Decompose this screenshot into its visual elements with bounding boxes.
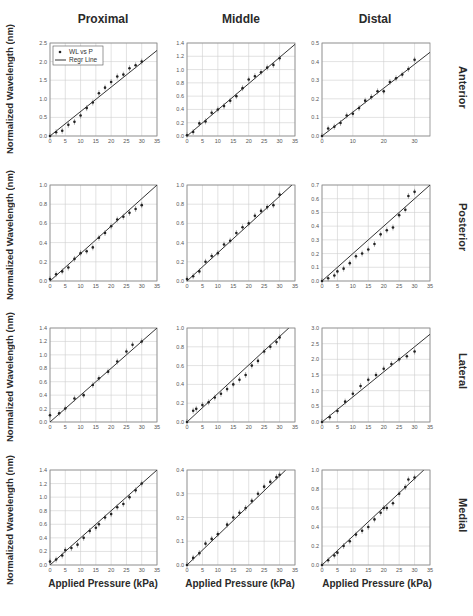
plot-medial-distal: 051015202530350.00.20.40.60.81.0 [322, 470, 430, 565]
column-title-distal: Distal [320, 12, 430, 26]
svg-text:30: 30 [277, 283, 283, 289]
svg-text:0.5: 0.5 [311, 403, 319, 409]
svg-text:0.4: 0.4 [311, 223, 319, 229]
svg-text:30: 30 [412, 138, 418, 144]
svg-text:35: 35 [154, 424, 160, 430]
svg-text:35: 35 [427, 424, 433, 430]
svg-text:25: 25 [123, 567, 129, 573]
svg-text:25: 25 [261, 138, 267, 144]
x-axis-label-middle: Applied Pressure (kPa) [175, 578, 305, 589]
svg-text:35: 35 [292, 138, 298, 144]
svg-text:0.0: 0.0 [39, 133, 47, 139]
svg-text:0.4: 0.4 [176, 381, 184, 387]
svg-text:35: 35 [292, 424, 298, 430]
svg-text:0.0: 0.0 [311, 419, 319, 425]
svg-text:15: 15 [365, 283, 371, 289]
svg-text:0.0: 0.0 [39, 562, 47, 568]
svg-text:0.2: 0.2 [39, 259, 47, 265]
svg-text:20: 20 [381, 424, 387, 430]
svg-text:10: 10 [78, 283, 84, 289]
svg-text:20: 20 [108, 424, 114, 430]
svg-text:25: 25 [396, 567, 402, 573]
svg-text:25: 25 [396, 283, 402, 289]
plot-lateral-middle: 051015202530350.00.20.40.60.81.0 [187, 328, 295, 422]
svg-text:0.0: 0.0 [176, 133, 184, 139]
plot-anterior-proximal: 051015202530350.00.51.01.52.02.5 WL vs P… [50, 43, 157, 136]
plot-posterior-proximal: 051015202530350.00.20.40.60.81.0 [50, 185, 157, 281]
row-label-medial: Medial [457, 498, 469, 532]
svg-text:0.8: 0.8 [39, 201, 47, 207]
svg-text:0.2: 0.2 [311, 96, 319, 102]
svg-text:0.8: 0.8 [176, 344, 184, 350]
y-axis-label-medial: Normalized Wavelength (nm) [4, 455, 15, 585]
svg-text:25: 25 [261, 283, 267, 289]
svg-text:0.1: 0.1 [311, 264, 319, 270]
svg-text:15: 15 [230, 424, 236, 430]
row-label-posterior: Posterior [457, 203, 469, 251]
svg-text:1.0: 1.0 [311, 388, 319, 394]
y-axis-label-posterior: Normalized Wavelength (nm) [4, 170, 15, 300]
svg-text:10: 10 [350, 424, 356, 430]
svg-text:0.2: 0.2 [176, 400, 184, 406]
svg-text:0.8: 0.8 [311, 486, 319, 492]
svg-text:0.2: 0.2 [39, 406, 47, 412]
y-axis-label-anterior: Normalized Wavelength (nm) [4, 24, 15, 154]
svg-text:15: 15 [230, 138, 236, 144]
svg-text:0.3: 0.3 [311, 237, 319, 243]
svg-text:20: 20 [108, 283, 114, 289]
svg-text:0.3: 0.3 [176, 491, 184, 497]
svg-text:15: 15 [93, 424, 99, 430]
svg-text:0.0: 0.0 [39, 278, 47, 284]
svg-text:0.8: 0.8 [39, 365, 47, 371]
svg-text:20: 20 [381, 138, 387, 144]
svg-text:0.4: 0.4 [39, 240, 47, 246]
svg-text:25: 25 [123, 424, 129, 430]
svg-text:5: 5 [64, 567, 67, 573]
svg-text:0.2: 0.2 [39, 548, 47, 554]
svg-text:0.8: 0.8 [176, 80, 184, 86]
svg-text:0.5: 0.5 [39, 114, 47, 120]
svg-text:0.2: 0.2 [311, 543, 319, 549]
svg-text:0.3: 0.3 [311, 77, 319, 83]
svg-text:0.2: 0.2 [176, 259, 184, 265]
svg-text:1.0: 1.0 [39, 96, 47, 102]
svg-text:10: 10 [78, 424, 84, 430]
x-axis-label-distal: Applied Pressure (kPa) [312, 578, 442, 589]
svg-text:30: 30 [412, 424, 418, 430]
y-axis-label-lateral: Normalized Wavelength (nm) [4, 312, 15, 442]
svg-text:0.6: 0.6 [311, 196, 319, 202]
svg-text:0.6: 0.6 [39, 220, 47, 226]
svg-text:0.6: 0.6 [311, 505, 319, 511]
svg-text:0.8: 0.8 [176, 201, 184, 207]
svg-text:0.0: 0.0 [311, 562, 319, 568]
svg-text:1.2: 1.2 [39, 338, 47, 344]
svg-text:0.2: 0.2 [176, 120, 184, 126]
svg-text:20: 20 [108, 567, 114, 573]
plot-lateral-distal: 051015202530350.00.51.01.52.02.53.0 [322, 328, 430, 422]
svg-text:5: 5 [64, 283, 67, 289]
svg-text:0.1: 0.1 [311, 114, 319, 120]
svg-text:0.0: 0.0 [39, 419, 47, 425]
svg-text:1.0: 1.0 [176, 325, 184, 331]
plot-lateral-proximal: 051015202530350.00.20.40.60.81.01.21.4 [50, 328, 157, 422]
svg-text:30: 30 [139, 424, 145, 430]
svg-text:5: 5 [64, 138, 67, 144]
svg-text:30: 30 [139, 567, 145, 573]
svg-text:1.5: 1.5 [311, 372, 319, 378]
plot-posterior-middle: 051015202530350.00.20.40.60.81.0 [187, 185, 295, 281]
svg-text:10: 10 [215, 138, 221, 144]
svg-text:0.1: 0.1 [176, 538, 184, 544]
svg-text:0: 0 [48, 567, 51, 573]
svg-text:0.4: 0.4 [39, 392, 47, 398]
svg-text:0.4: 0.4 [176, 240, 184, 246]
svg-text:1.4: 1.4 [39, 467, 47, 473]
svg-text:3.0: 3.0 [311, 325, 319, 331]
svg-text:0.0: 0.0 [311, 133, 319, 139]
svg-text:15: 15 [93, 138, 99, 144]
svg-text:1.4: 1.4 [39, 325, 47, 331]
svg-text:10: 10 [350, 283, 356, 289]
svg-text:10: 10 [78, 567, 84, 573]
svg-text:20: 20 [381, 567, 387, 573]
svg-text:30: 30 [139, 283, 145, 289]
svg-text:0.5: 0.5 [311, 40, 319, 46]
